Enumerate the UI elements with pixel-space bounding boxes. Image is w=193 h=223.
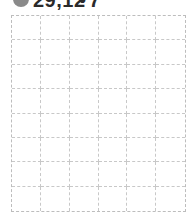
grid-cell[interactable] [12,40,41,64]
grid-cell[interactable] [41,16,70,40]
grid-cell[interactable] [156,187,185,211]
grid-cell[interactable] [70,187,99,211]
grid-cell[interactable] [12,89,41,113]
grid-cell[interactable] [70,138,99,162]
circle-icon [13,0,29,7]
grid-cell[interactable] [41,162,70,186]
grid-cell[interactable] [41,65,70,89]
grid-cell[interactable] [12,162,41,186]
grid-cell[interactable] [99,65,128,89]
grid-cell[interactable] [70,162,99,186]
grid-cell[interactable] [127,89,156,113]
grid-cell[interactable] [156,89,185,113]
grid-cell[interactable] [12,16,41,40]
grid-cell[interactable] [12,138,41,162]
grid-cell[interactable] [156,114,185,138]
grid-cell[interactable] [156,162,185,186]
grid-cell[interactable] [41,40,70,64]
header-separator: • [79,0,86,12]
header-value: 29,12 [33,0,86,12]
grid-cell[interactable] [70,89,99,113]
grid-cell[interactable] [41,187,70,211]
grid-cell[interactable] [70,114,99,138]
grid-cell[interactable] [127,65,156,89]
grid-cell[interactable] [156,138,185,162]
grid-cell[interactable] [70,16,99,40]
grid-cell[interactable] [156,40,185,64]
grid-cell[interactable] [127,162,156,186]
header: 29,12 • 7 [0,0,193,9]
grid-cell[interactable] [156,16,185,40]
grid-cell[interactable] [41,138,70,162]
grid-cell[interactable] [99,16,128,40]
grid-cell[interactable] [127,40,156,64]
grid-cell[interactable] [41,114,70,138]
grid-cell[interactable] [99,162,128,186]
grid-cell[interactable] [99,40,128,64]
dashed-grid [11,15,186,212]
grid-cell[interactable] [12,65,41,89]
grid-cell[interactable] [127,138,156,162]
grid-cell[interactable] [70,40,99,64]
grid-cell[interactable] [99,187,128,211]
grid-cell[interactable] [99,89,128,113]
grid-cell[interactable] [70,65,99,89]
grid-cell[interactable] [12,187,41,211]
header-count: 7 [89,0,100,12]
grid-cell[interactable] [41,89,70,113]
grid-cell[interactable] [99,114,128,138]
grid-cell[interactable] [156,65,185,89]
grid-cell[interactable] [99,138,128,162]
grid-cell[interactable] [127,114,156,138]
grid-cell[interactable] [127,16,156,40]
grid-cell[interactable] [12,114,41,138]
grid-cell[interactable] [127,187,156,211]
